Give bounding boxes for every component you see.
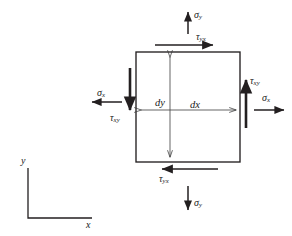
tau-xy-right-label: τxy [250,76,260,87]
sigma-x-right-label: σx [262,93,270,104]
sigma-x-left-label: σx [97,88,105,99]
coordinate-axes [28,168,92,218]
stress-element-square [136,52,240,162]
sigma-y-top-label: σy [194,10,202,21]
tau-yx-top-label: τyx [196,32,206,43]
dy-dimension-label: dy [155,98,165,109]
figure-canvas: σy τyx τyx σy σx τxy τxy σx dy dx y x [0,0,292,236]
dx-dimension-label: dx [190,100,200,111]
tau-xy-left-label: τxy [110,113,120,124]
x-axis-label: x [86,220,90,230]
stress-element-diagram [0,0,292,236]
y-axis-label: y [21,156,25,166]
tau-yx-bottom-label: τyx [159,174,169,185]
sigma-y-bottom-label: σy [194,198,202,209]
